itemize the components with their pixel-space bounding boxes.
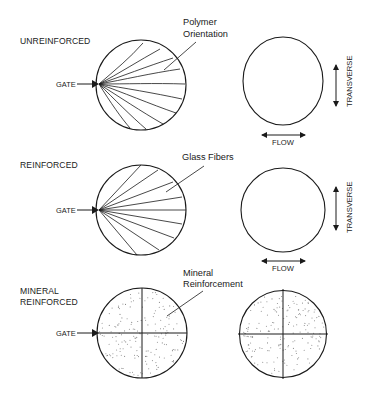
mineral-stipple <box>243 296 324 374</box>
callout-mineral: Mineral <box>183 268 213 278</box>
callout-reinforcement: Reinforcement <box>183 279 243 289</box>
part-unreinforced <box>96 40 186 130</box>
callout-glass-fibers: Glass Fibers <box>182 152 234 162</box>
callout-leader-line <box>164 42 196 70</box>
callout-polymer: Polymer <box>183 17 217 27</box>
part-mineral-reinforced <box>97 288 187 378</box>
part-reinforced <box>96 165 186 255</box>
callout-leader-line <box>166 166 204 192</box>
molding-shrinkage-diagram: UNREINFORCED GATE Polymer <box>0 0 368 400</box>
row-mineral-reinforced: MINERAL REINFORCED GATE Mineral Reinforc… <box>20 268 328 379</box>
transverse-label: TRANSVERSE <box>345 182 354 233</box>
polymer-orientation-lines <box>99 43 185 129</box>
gate-label: GATE <box>56 80 76 89</box>
row-unreinforced: UNREINFORCED GATE Polymer <box>20 17 354 147</box>
row-label-mineral: MINERAL <box>20 286 59 296</box>
row-label-reinforced-2: REINFORCED <box>20 297 78 307</box>
shrunk-part-unreinforced <box>243 37 323 125</box>
shrunk-part-mineral <box>238 289 328 379</box>
callout-leader-line <box>167 291 203 316</box>
gate-label: GATE <box>56 329 76 338</box>
row-label-reinforced: REINFORCED <box>20 160 78 170</box>
shrunk-part-reinforced <box>241 168 325 252</box>
flow-label: FLOW <box>272 264 295 273</box>
gate-arrow-icon <box>77 329 99 337</box>
transverse-label: TRANSVERSE <box>345 56 354 107</box>
row-reinforced: REINFORCED GATE Glass Fibers TRA <box>20 152 354 273</box>
gate-label: GATE <box>56 206 76 215</box>
callout-orientation: Orientation <box>183 29 228 39</box>
row-label-unreinforced: UNREINFORCED <box>20 36 90 46</box>
flow-label: FLOW <box>272 138 295 147</box>
